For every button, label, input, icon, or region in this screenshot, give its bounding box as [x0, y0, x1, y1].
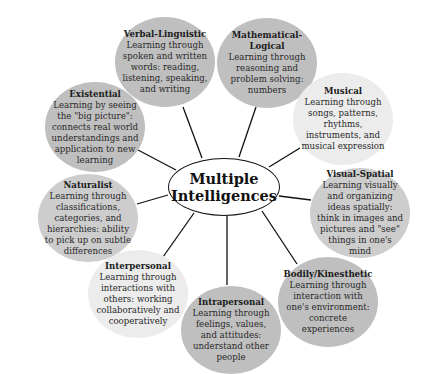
node-title: Visual-Spatial [326, 169, 393, 180]
node-title: Existential [69, 89, 121, 100]
node-visual: Visual-SpatialLearning visually and orga… [310, 168, 410, 258]
center-node: Multiple Intelligences [168, 158, 280, 216]
center-title-line1: Multiple [189, 170, 258, 187]
node-inter: InterpersonalLearning through interactio… [88, 250, 188, 338]
node-description: Learning through classifications, catego… [44, 191, 132, 257]
node-intra: IntrapersonalLearning through feelings, … [181, 286, 281, 374]
node-title: Verbal-Linguistic [124, 29, 207, 40]
connector-math [239, 107, 256, 157]
connector-musical [269, 148, 300, 167]
node-description: Learning through songs, patterns, rhythm… [299, 97, 387, 152]
node-title: Mathematical-Logical [223, 30, 311, 52]
node-naturalist: NaturalistLearning through classificatio… [38, 174, 138, 262]
node-description: Learning through interaction with one's … [284, 280, 372, 335]
node-description: Learning through reasoning and problem s… [223, 52, 311, 96]
connector-naturalist [137, 195, 168, 204]
connector-bodily [262, 211, 297, 264]
node-title: Musical [324, 86, 362, 97]
node-description: Learning through spoken and written word… [121, 40, 209, 95]
connector-visual [279, 196, 311, 200]
node-title: Naturalist [63, 180, 112, 191]
node-description: Learning through interactions with other… [94, 272, 182, 327]
node-title: Intrapersonal [198, 297, 264, 308]
node-description: Learning by seeing the "big picture": co… [51, 100, 139, 166]
node-verbal: Verbal-LinguisticLearning through spoken… [115, 17, 215, 107]
node-description: Learning visually and organizing ideas s… [316, 180, 404, 257]
connector-verbal [183, 107, 202, 158]
node-title: Interpersonal [105, 261, 171, 272]
node-bodily: Bodily/KinestheticLearning through inter… [278, 257, 378, 347]
node-existential: ExistentialLearning by seeing the "big p… [45, 82, 145, 172]
node-musical: MusicalLearning through songs, patterns,… [293, 73, 393, 165]
node-title: Bodily/Kinesthetic [283, 269, 372, 280]
node-description: Learning through feelings, values, and a… [187, 308, 275, 363]
center-title-line2: Intelligences [171, 187, 277, 204]
connector-existential [138, 150, 176, 170]
connector-inter [163, 213, 194, 257]
